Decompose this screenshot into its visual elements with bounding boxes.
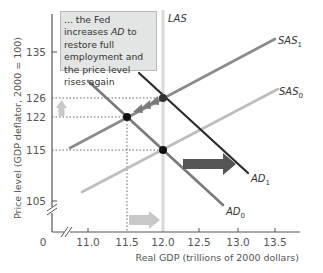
sas1-movement-arrows bbox=[133, 96, 159, 113]
ad0-label: AD0 bbox=[225, 206, 245, 220]
ad1-label: AD1 bbox=[250, 173, 270, 187]
real-gdp-rise-arrow bbox=[129, 211, 160, 229]
equilibrium-point-new bbox=[159, 94, 167, 102]
y-tick-label: 135 bbox=[26, 46, 46, 58]
las-label: LAS bbox=[168, 13, 187, 24]
y-tick-label: 126 bbox=[26, 92, 46, 104]
sas0-label: SAS0 bbox=[279, 86, 303, 100]
sas0-curve bbox=[82, 89, 278, 192]
x-tick-label: 13.0 bbox=[226, 236, 249, 248]
y-tick-label: 122 bbox=[26, 111, 46, 123]
annotation-italic: AD bbox=[111, 26, 125, 37]
equilibrium-point-initial bbox=[159, 146, 167, 154]
origin-label: 0 bbox=[40, 236, 47, 248]
price-rise-arrow bbox=[56, 100, 67, 116]
annotation-prefix: ... the Fed increases bbox=[64, 14, 111, 37]
ad-shift-arrow bbox=[183, 153, 236, 175]
x-tick-label: 11.5 bbox=[115, 236, 138, 248]
y-tick-label: 115 bbox=[26, 144, 46, 156]
x-axis-title: Real GDP (trillions of 2000 dollars) bbox=[136, 252, 300, 263]
x-tick-label: 13.5 bbox=[263, 236, 286, 248]
x-tick-label: 12.0 bbox=[151, 236, 174, 248]
sas1-label: SAS1 bbox=[278, 35, 302, 49]
x-tick-label: 12.5 bbox=[187, 236, 210, 248]
annotation-box: ... the Fed increases AD to restore full… bbox=[60, 11, 157, 71]
y-tick-label: 105 bbox=[26, 195, 46, 207]
ad1-curve bbox=[139, 73, 248, 173]
equilibrium-point-short-run bbox=[123, 113, 131, 121]
x-tick-label: 11.0 bbox=[76, 236, 99, 248]
y-ticks bbox=[52, 52, 57, 201]
y-axis-title: Price level (GDP deflator, 2000 = 100) bbox=[12, 37, 23, 219]
chart-canvas: 135 126 122 115 105 0 11.0 11.5 12.0 12.… bbox=[0, 0, 323, 273]
